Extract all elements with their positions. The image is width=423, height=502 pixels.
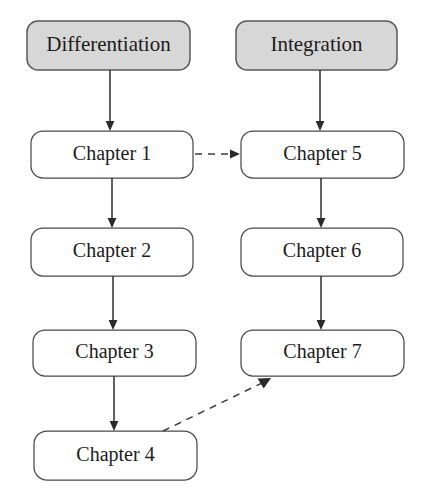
node-integration-label: Integration: [270, 32, 363, 56]
flowchart-diagram: Differentiation Integration Chapter 1 Ch…: [0, 0, 423, 502]
edge-line-dashed: [163, 383, 262, 431]
edge-differentiation-to-chapter-1: [106, 70, 115, 131]
node-integration[interactable]: Integration: [236, 21, 397, 70]
node-chapter-1-label: Chapter 1: [73, 142, 151, 165]
node-chapter-7-label: Chapter 7: [283, 340, 361, 363]
arrowhead-right-icon: [230, 150, 240, 159]
edge-integration-to-chapter-5: [316, 70, 325, 131]
node-differentiation-label: Differentiation: [46, 32, 171, 56]
node-chapter-3-label: Chapter 3: [75, 340, 153, 363]
arrowhead-down-icon: [317, 320, 326, 330]
node-chapter-6[interactable]: Chapter 6: [241, 228, 403, 276]
arrowhead-down-icon: [109, 320, 118, 330]
arrowhead-down-icon: [317, 218, 326, 228]
arrowhead-down-icon: [108, 218, 117, 228]
edge-chapter-3-to-chapter-4: [110, 376, 119, 431]
node-chapter-5-label: Chapter 5: [283, 142, 361, 165]
node-chapter-4-label: Chapter 4: [76, 443, 154, 466]
arrowhead-down-icon: [106, 121, 115, 131]
node-chapter-5[interactable]: Chapter 5: [241, 131, 404, 178]
node-chapter-1[interactable]: Chapter 1: [31, 131, 193, 178]
edge-chapter-1-to-chapter-2: [108, 178, 117, 228]
edge-chapter-2-to-chapter-3: [109, 276, 118, 330]
arrowhead-down-icon: [110, 421, 119, 431]
node-differentiation[interactable]: Differentiation: [27, 21, 190, 70]
arrowhead-diagonal-icon: [258, 378, 272, 389]
node-chapter-2-label: Chapter 2: [73, 239, 151, 262]
diagram-canvas: Differentiation Integration Chapter 1 Ch…: [0, 0, 423, 502]
node-chapter-7[interactable]: Chapter 7: [241, 330, 404, 376]
node-chapter-2[interactable]: Chapter 2: [31, 228, 193, 276]
arrowhead-down-icon: [316, 121, 325, 131]
node-chapter-4[interactable]: Chapter 4: [34, 431, 197, 480]
edge-chapter-4-to-chapter-7-dashed: [163, 378, 271, 431]
edge-chapter-6-to-chapter-7: [317, 276, 326, 330]
edge-chapter-1-to-chapter-5-dashed: [195, 150, 240, 159]
node-chapter-6-label: Chapter 6: [283, 239, 361, 262]
edge-chapter-5-to-chapter-6: [317, 178, 326, 228]
node-chapter-3[interactable]: Chapter 3: [33, 330, 196, 376]
